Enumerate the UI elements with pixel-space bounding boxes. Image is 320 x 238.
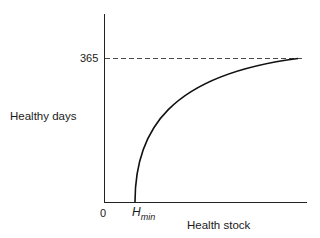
x-tick-zero: 0 (100, 207, 106, 219)
x-axis-title: Health stock (187, 219, 250, 231)
y-tick-365: 365 (80, 52, 98, 64)
x-tick-hmin: Hmin (132, 205, 155, 222)
y-axis-title: Healthy days (10, 110, 76, 122)
healthy-days-curve (135, 59, 298, 203)
